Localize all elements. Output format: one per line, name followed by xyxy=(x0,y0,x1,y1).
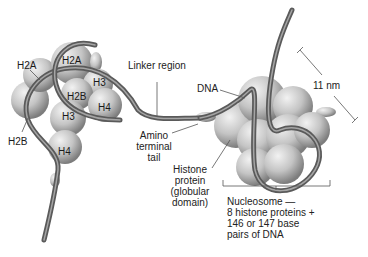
label-h2a-inner: H2A xyxy=(62,55,81,66)
label-h2a-outer: H2A xyxy=(17,60,36,71)
label-line: 8 histone proteins + xyxy=(227,207,315,218)
label-line: pairs of DNA xyxy=(227,229,315,240)
label-h4-right: H4 xyxy=(98,102,111,113)
dimension-line-top xyxy=(300,50,322,75)
label-nucleosome: Nucleosome — 8 histone proteins + 146 or… xyxy=(227,196,315,240)
label-line: tail xyxy=(134,152,174,163)
label-dimension: 11 nm xyxy=(313,80,340,91)
label-line: protein xyxy=(165,175,215,186)
label-line: domain) xyxy=(165,197,215,208)
label-line: (globular xyxy=(165,186,215,197)
label-line: Amino xyxy=(134,130,174,141)
label-h4-bottom: H4 xyxy=(58,146,71,157)
label-h3-mid: H3 xyxy=(62,111,75,122)
label-line: terminal xyxy=(134,141,174,152)
dimension-line-bottom xyxy=(334,96,355,120)
label-amino-terminal-tail: Amino terminal tail xyxy=(134,130,174,163)
label-h3-top: H3 xyxy=(93,77,106,88)
label-h2b-outer: H2B xyxy=(8,136,27,147)
nucleosome-diagram: H2A H2A H3 H2B H4 H3 H2B H4 Linker regio… xyxy=(0,0,368,257)
label-h2b-inner: H2B xyxy=(67,91,86,102)
label-line: Histone xyxy=(165,164,215,175)
leader-h2b-outer xyxy=(22,118,28,132)
leader-amino-tail xyxy=(172,124,198,133)
label-line: Nucleosome — xyxy=(227,196,315,207)
label-histone-protein: Histone protein (globular domain) xyxy=(165,164,215,208)
histone-sphere xyxy=(264,144,304,184)
label-linker-region: Linker region xyxy=(128,60,186,71)
label-dna: DNA xyxy=(197,83,218,94)
label-line: 146 or 147 base xyxy=(227,218,315,229)
